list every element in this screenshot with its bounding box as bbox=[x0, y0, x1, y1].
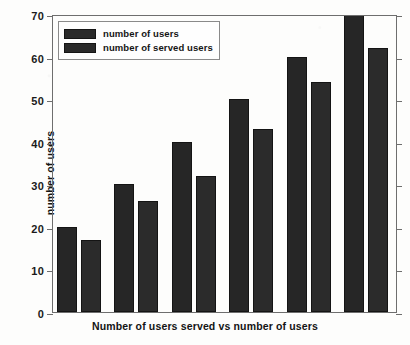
legend-swatch-icon bbox=[64, 43, 96, 53]
y-axis-tick bbox=[396, 186, 402, 187]
bar bbox=[172, 142, 192, 312]
y-axis-tick-label: 10 bbox=[31, 265, 44, 277]
y-axis-tick bbox=[396, 59, 402, 60]
bar bbox=[344, 16, 364, 312]
y-axis-tick-label: 40 bbox=[31, 138, 44, 150]
y-axis-tick bbox=[47, 144, 53, 145]
y-axis-tick-label: 20 bbox=[31, 223, 44, 235]
bars-layer bbox=[53, 16, 396, 312]
legend-item-number-of-served-users: number of served users bbox=[64, 41, 213, 54]
y-axis-tick bbox=[47, 59, 53, 60]
bar-chart-figure: number of users 010203040506070 number o… bbox=[0, 0, 410, 345]
bar bbox=[368, 48, 388, 312]
y-axis-tick bbox=[47, 101, 53, 102]
y-axis-tick-label: 70 bbox=[31, 10, 44, 22]
bar bbox=[138, 201, 158, 312]
chart-legend: number of users number of served users bbox=[58, 21, 220, 60]
y-axis-tick bbox=[47, 314, 53, 315]
y-axis-tick bbox=[396, 16, 402, 17]
y-axis-tick bbox=[47, 186, 53, 187]
bar bbox=[253, 129, 273, 312]
bar bbox=[114, 184, 134, 312]
legend-item-number-of-users: number of users bbox=[64, 27, 213, 40]
bar bbox=[81, 240, 101, 312]
y-axis-tick-label: 60 bbox=[31, 53, 44, 65]
bar bbox=[196, 176, 216, 312]
bar bbox=[287, 57, 307, 312]
legend-label: number of served users bbox=[103, 42, 213, 53]
bar bbox=[57, 227, 77, 312]
y-axis-tick bbox=[396, 144, 402, 145]
bar bbox=[229, 99, 249, 312]
legend-label: number of users bbox=[103, 28, 179, 39]
x-axis-title: Number of users served vs number of user… bbox=[0, 320, 410, 332]
plot-area: 010203040506070 number of users number o… bbox=[52, 15, 397, 313]
y-axis-tick bbox=[396, 314, 402, 315]
y-axis-tick bbox=[396, 229, 402, 230]
y-axis-tick-label: 50 bbox=[31, 95, 44, 107]
y-axis-tick bbox=[47, 16, 53, 17]
y-axis-tick bbox=[396, 101, 402, 102]
y-axis-tick bbox=[47, 229, 53, 230]
y-axis-tick bbox=[47, 271, 53, 272]
y-axis-tick-label: 0 bbox=[38, 308, 44, 320]
y-axis-tick bbox=[396, 271, 402, 272]
y-axis-tick-label: 30 bbox=[31, 180, 44, 192]
bar bbox=[311, 82, 331, 312]
legend-swatch-icon bbox=[64, 29, 96, 39]
